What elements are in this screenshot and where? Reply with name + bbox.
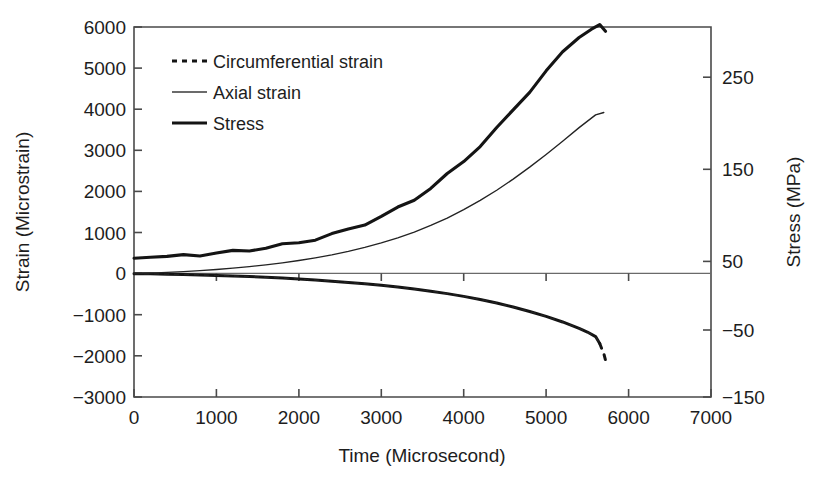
data-series-group	[134, 25, 605, 360]
y-tick-label: −1000	[73, 305, 126, 326]
y-tick-label: −2000	[73, 346, 126, 367]
legend: Circumferential strain Axial strain Stre…	[172, 52, 383, 134]
y2-tick-label: 150	[722, 159, 754, 180]
left-axis-ticks	[134, 27, 142, 397]
x-tick-label: 0	[129, 407, 140, 428]
series-circumferential-strain-tail	[600, 344, 606, 360]
y2-tick-label: −50	[722, 320, 754, 341]
y2-tick-label: 250	[722, 67, 754, 88]
x-tick-label: 6000	[607, 407, 649, 428]
strain-stress-vs-time-chart: 6000 5000 4000 3000 2000 1000 0 −1000 −2…	[0, 0, 820, 492]
series-circumferential-strain-overlay	[134, 274, 600, 344]
right-axis-tick-labels: 250 150 50 −50 −150	[722, 67, 765, 408]
x-tick-label: 4000	[443, 407, 485, 428]
y-tick-label: 3000	[84, 140, 126, 161]
y-tick-label: 0	[115, 263, 126, 284]
left-axis-tick-labels: 6000 5000 4000 3000 2000 1000 0 −1000 −2…	[73, 17, 126, 408]
y-axis-title: Strain (Microstrain)	[12, 132, 33, 292]
y-tick-label: 6000	[84, 17, 126, 38]
legend-label-circumferential-strain: Circumferential strain	[213, 52, 383, 72]
legend-label-stress: Stress	[213, 114, 264, 134]
y-tick-label: 5000	[84, 58, 126, 79]
x-tick-label: 5000	[525, 407, 567, 428]
y2-tick-label: −150	[722, 387, 765, 408]
series-axial-strain	[134, 113, 604, 274]
y-tick-label: 4000	[84, 99, 126, 120]
x-tick-label: 3000	[360, 407, 402, 428]
y2-tick-label: 50	[722, 251, 743, 272]
y2-axis-title: Stress (MPa)	[783, 157, 804, 268]
x-tick-label: 1000	[195, 407, 237, 428]
legend-label-axial-strain: Axial strain	[213, 83, 301, 103]
figure-container: 6000 5000 4000 3000 2000 1000 0 −1000 −2…	[0, 0, 820, 492]
y-tick-label: 2000	[84, 181, 126, 202]
y-tick-label: 1000	[84, 223, 126, 244]
bottom-axis-tick-labels: 0 1000 2000 3000 4000 5000 6000 7000	[129, 407, 732, 428]
x-axis-title: Time (Microsecond)	[338, 445, 505, 466]
x-tick-label: 2000	[278, 407, 320, 428]
x-tick-label: 7000	[690, 407, 732, 428]
y-tick-label: −3000	[73, 387, 126, 408]
right-axis-ticks	[703, 77, 711, 397]
bottom-axis-ticks	[134, 389, 711, 397]
